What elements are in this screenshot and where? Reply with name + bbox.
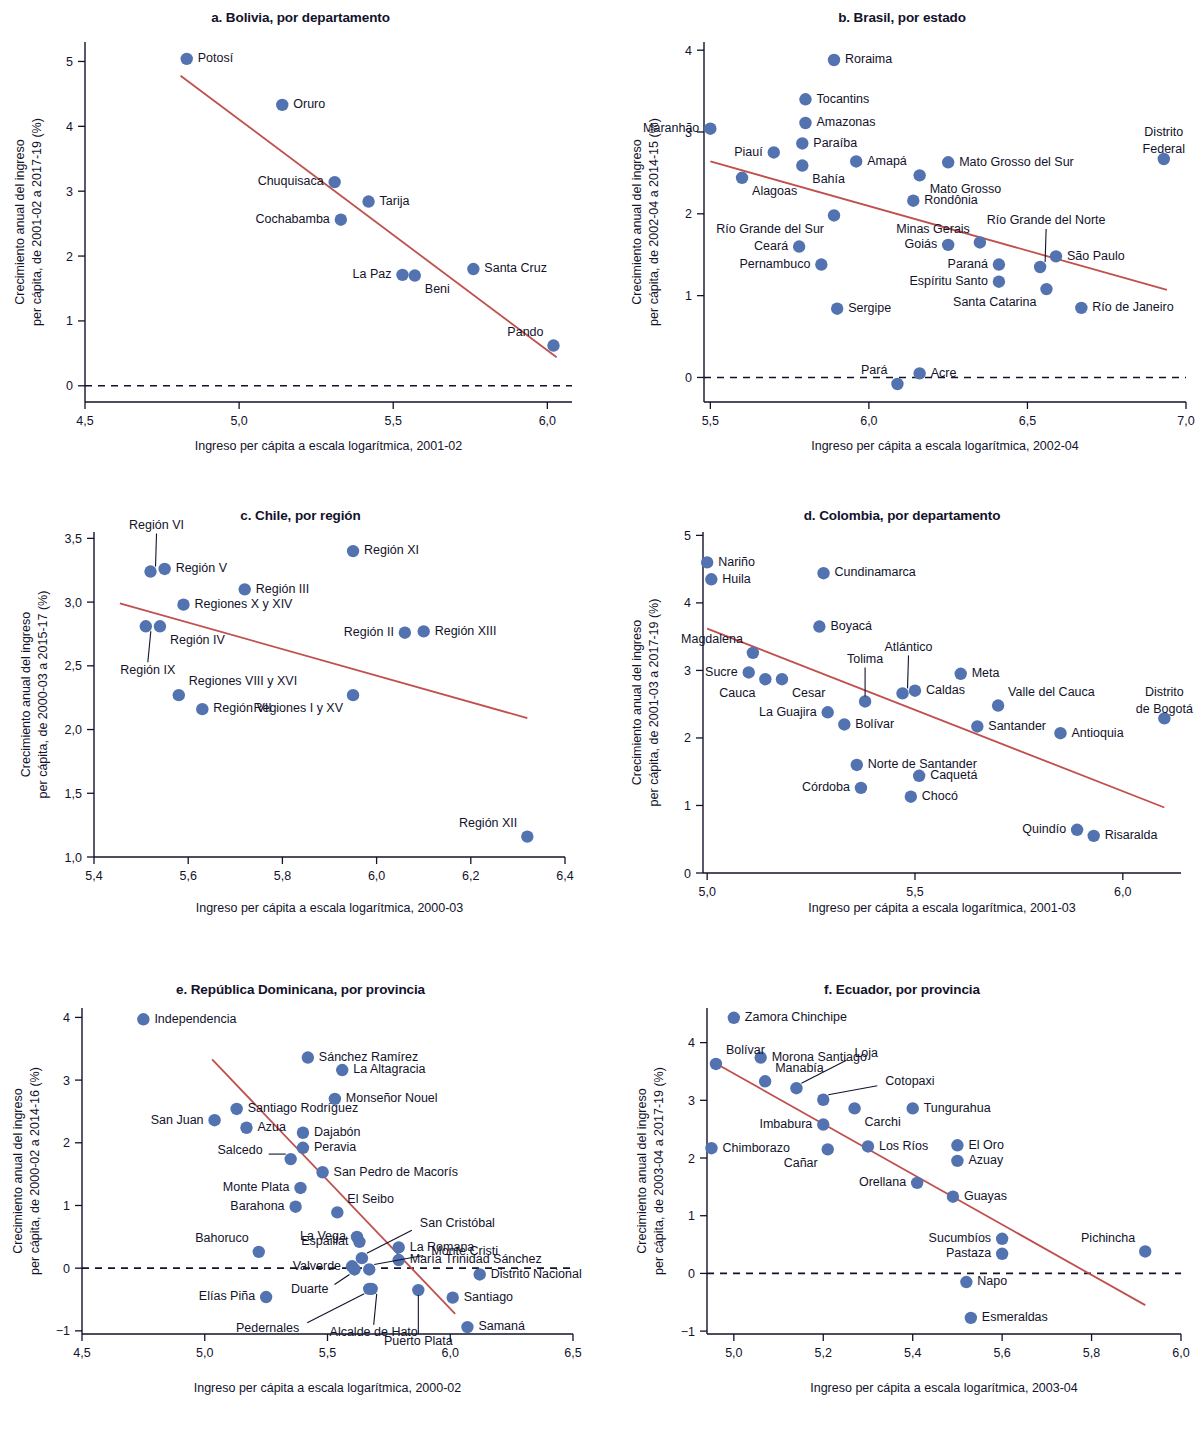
data-point <box>418 625 430 637</box>
y-tick-label: 2 <box>684 731 691 745</box>
data-point <box>521 830 533 842</box>
label-leader-line <box>148 631 151 662</box>
y-tick-label: 1 <box>688 1209 695 1223</box>
data-point <box>960 1276 972 1288</box>
data-point <box>1040 283 1052 295</box>
data-point-label: Imbabura <box>759 1117 812 1131</box>
data-point-label: Piauí <box>734 145 763 159</box>
data-point <box>347 689 359 701</box>
data-point-label: Espaillat <box>301 1234 349 1248</box>
data-point-label: Quindío <box>1022 822 1066 836</box>
data-point <box>851 759 863 771</box>
data-point <box>144 565 156 577</box>
data-point-label: Nariño <box>718 555 755 569</box>
chart-panel-d: d. Colombia, por departamento5,05,56,001… <box>601 480 1203 960</box>
data-point <box>951 1139 963 1151</box>
data-point-label: Santander <box>988 719 1046 733</box>
y-tick-label: 1 <box>66 314 73 328</box>
data-point <box>828 209 840 221</box>
data-point-label: Antioquia <box>1071 726 1123 740</box>
data-point <box>947 1190 959 1202</box>
x-tick-label: 5,4 <box>904 1346 921 1360</box>
data-point <box>828 54 840 66</box>
panel-title: b. Brasil, por estado <box>838 10 966 25</box>
y-axis-label-line1: Crecimiento anual del ingreso <box>635 1088 649 1253</box>
data-point <box>862 1140 874 1152</box>
data-point-label: Amapá <box>867 154 907 168</box>
data-point-label: Espíritu Santo <box>909 274 988 288</box>
y-tick-label: 4 <box>684 596 691 610</box>
data-point <box>335 214 347 226</box>
x-tick-label: 6,0 <box>860 414 877 428</box>
x-axis-label: Ingreso per cápita a escala logarítmica,… <box>196 901 464 915</box>
y-tick-label: 0 <box>66 379 73 393</box>
data-point-label: Región XIII <box>435 624 497 638</box>
data-point-label: Samaná <box>478 1319 525 1333</box>
x-tick-label: 5,2 <box>815 1346 832 1360</box>
data-point-label: Magdalena <box>681 632 743 646</box>
data-point-label: de Bogotá <box>1136 702 1193 716</box>
data-point <box>173 689 185 701</box>
data-point-label: Distrito <box>1145 685 1184 699</box>
y-axis-label-line1: Crecimiento anual del ingreso <box>630 139 644 304</box>
data-point <box>815 258 827 270</box>
data-point <box>965 1312 977 1324</box>
data-point <box>705 573 717 585</box>
data-point-label: Tarija <box>380 194 410 208</box>
data-point-label: Pedernales <box>236 1321 299 1335</box>
data-point <box>353 1236 365 1248</box>
x-tick-label: 5,5 <box>319 1346 336 1360</box>
y-tick-label: 3 <box>66 185 73 199</box>
data-point-label: Región II <box>344 625 394 639</box>
data-point-label: Dajabón <box>314 1125 361 1139</box>
label-leader-line <box>156 534 157 567</box>
label-leader-line <box>828 1086 877 1095</box>
data-point-label: Tocantins <box>816 92 869 106</box>
data-point <box>294 1182 306 1194</box>
x-tick-label: 4,5 <box>73 1346 90 1360</box>
data-point-label: Minas Gerais <box>896 222 970 236</box>
data-point <box>859 695 871 707</box>
y-tick-label: 3 <box>688 1094 695 1108</box>
data-point <box>848 1102 860 1114</box>
data-point-label: Región VI <box>129 518 184 532</box>
data-point <box>776 673 788 685</box>
data-point-label: El Oro <box>968 1138 1003 1152</box>
data-point-label: Región XII <box>459 816 517 830</box>
data-point-label: Cesar <box>792 686 825 700</box>
data-point-label: Puerto Plata <box>384 1334 453 1348</box>
data-point <box>701 556 713 568</box>
data-point <box>196 703 208 715</box>
data-point-label: Rondônia <box>924 193 978 207</box>
data-point-label: Orellana <box>859 1175 906 1189</box>
data-point <box>1054 727 1066 739</box>
data-point <box>996 1248 1008 1260</box>
chart-panel-e: e. República Dominicana, por provincia4,… <box>0 960 601 1446</box>
data-point-label: Bolívar <box>726 1043 765 1057</box>
data-point <box>1034 261 1046 273</box>
data-point <box>474 1268 486 1280</box>
data-point-label: Azua <box>257 1120 286 1134</box>
data-point <box>813 620 825 632</box>
y-tick-label: −1 <box>681 1325 695 1339</box>
data-point <box>971 720 983 732</box>
y-axis-label-line2: per cápita, de 2000-03 a 2015-17 (%) <box>36 591 50 799</box>
data-point <box>992 699 1004 711</box>
x-tick-label: 5,8 <box>274 869 291 883</box>
data-point-label: Beni <box>425 282 450 296</box>
data-point <box>297 1142 309 1154</box>
y-tick-label: 5 <box>66 55 73 69</box>
y-tick-label: 1,5 <box>65 787 82 801</box>
data-point-label: Cañar <box>784 1156 818 1170</box>
x-axis-label: Ingreso per cápita a escala logarítmica,… <box>810 1381 1078 1395</box>
data-point <box>905 790 917 802</box>
data-point <box>239 583 251 595</box>
y-tick-label: 3,0 <box>65 596 82 610</box>
data-point-label: Independencia <box>154 1012 236 1026</box>
x-tick-label: 6,4 <box>556 869 573 883</box>
chart-panel-a: a. Bolivia, por departamento4,55,05,56,0… <box>0 0 601 480</box>
panel-title: e. República Dominicana, por provincia <box>176 982 426 997</box>
data-point-label: Paraná <box>948 257 988 271</box>
data-point <box>821 706 833 718</box>
data-point-label: Federal <box>1143 142 1185 156</box>
